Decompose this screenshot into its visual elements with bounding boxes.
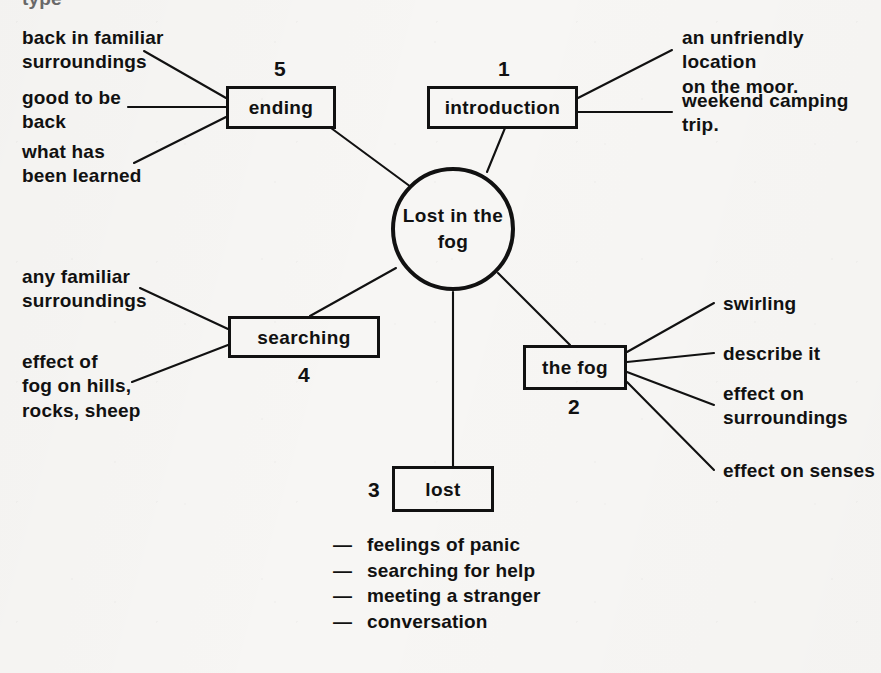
line-the-fog-to-effect-on-senses [627, 382, 714, 470]
line-introduction-to-unfriendly-location [578, 50, 672, 98]
dash-bullet-icon: — [333, 535, 367, 554]
dash-bullet-icon: — [333, 561, 367, 580]
line-center-to-searching [310, 268, 396, 316]
node-searching-number: 4 [298, 364, 310, 385]
bullet-searching-for-help: searching for help [367, 561, 535, 580]
node-introduction[interactable]: introduction [427, 86, 578, 129]
bullet-meeting-a-stranger: meeting a stranger [367, 586, 541, 605]
node-searching-label: searching [257, 328, 350, 347]
list-item: — feelings of panic [333, 535, 541, 561]
list-item: — meeting a stranger [333, 586, 541, 612]
leaf-effect-on-surroundings: effect on surroundings [723, 382, 848, 431]
line-searching-to-effect-of-fog [132, 345, 228, 382]
lost-bullet-list: — feelings of panic — searching for help… [333, 535, 541, 637]
node-ending[interactable]: ending [226, 86, 336, 129]
center-node-label: Lost in the fog [395, 203, 511, 254]
node-lost[interactable]: lost [392, 466, 494, 512]
dash-bullet-icon: — [333, 586, 367, 605]
line-the-fog-to-effect-on-surroundings [627, 372, 714, 405]
leaf-weekend-camping-trip: weekend camping trip. [682, 89, 849, 138]
leaf-back-in-familiar-surroundings: back in familiar surroundings [22, 26, 164, 75]
line-the-fog-to-describe-it [627, 353, 714, 362]
node-ending-number: 5 [274, 58, 286, 79]
line-introduction-to-center [487, 128, 505, 172]
dash-bullet-icon: — [333, 612, 367, 631]
diagram-canvas: type [0, 0, 881, 673]
line-ending-to-center [331, 128, 411, 187]
center-node-lost-in-the-fog[interactable]: Lost in the fog [391, 167, 515, 291]
bullet-conversation: conversation [367, 612, 488, 631]
node-searching[interactable]: searching [228, 316, 380, 358]
line-the-fog-to-swirling [627, 303, 714, 352]
node-ending-label: ending [249, 98, 314, 117]
leaf-any-familiar-surroundings: any familiar surroundings [22, 265, 147, 314]
node-the-fog[interactable]: the fog [523, 345, 627, 390]
leaf-what-has-been-learned: what has been learned [22, 140, 142, 189]
list-item: — conversation [333, 612, 541, 638]
leaf-good-to-be-back: good to be back [22, 86, 121, 135]
leaf-effect-of-fog-on-hills-rocks-sheep: effect of fog on hills, rocks, sheep [22, 350, 141, 423]
node-the-fog-number: 2 [568, 396, 580, 417]
leaf-swirling: swirling [723, 292, 796, 316]
leaf-an-unfriendly-location-on-the-moor: an unfriendly location on the moor. [682, 26, 881, 99]
bullet-feelings-of-panic: feelings of panic [367, 535, 520, 554]
line-searching-to-any-familiar [140, 288, 228, 329]
line-center-to-the-fog [498, 273, 570, 345]
cut-off-heading-text: type [22, 0, 62, 10]
node-introduction-label: introduction [445, 98, 561, 117]
line-ending-to-what-has-been-learned [134, 117, 226, 163]
leaf-describe-it: describe it [723, 342, 820, 366]
node-the-fog-label: the fog [542, 358, 608, 377]
node-lost-number: 3 [368, 479, 380, 500]
list-item: — searching for help [333, 561, 541, 587]
node-introduction-number: 1 [498, 58, 510, 79]
node-lost-label: lost [425, 480, 460, 499]
leaf-effect-on-senses: effect on senses [723, 459, 875, 483]
